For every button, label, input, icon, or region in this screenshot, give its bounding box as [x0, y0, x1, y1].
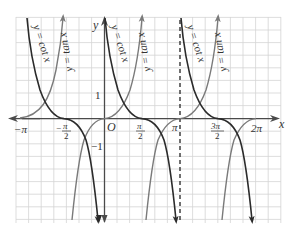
x-tick-neg-pi: −π: [14, 123, 27, 135]
x-tick-pi2-den: 2: [138, 131, 143, 141]
x-tick-2pi: 2π: [251, 122, 263, 134]
y-tick-1: 1: [95, 89, 101, 101]
x-tick-3pi2-num: 3π: [210, 121, 221, 131]
x-tick-3pi2-den: 2: [215, 131, 220, 141]
tan-label-3: y = tan x: [210, 32, 229, 74]
y-tick-neg1: −1: [91, 140, 103, 152]
y-axis-label: y: [92, 18, 99, 32]
x-axis-label: x: [278, 117, 285, 131]
x-tick-pi2-num: π: [137, 121, 142, 131]
origin-label: O: [107, 120, 116, 134]
axis-labels: y x O 1 −1 −π − π 2 π 2 π 3π 2 2π: [14, 18, 285, 152]
tan-label-1: y = tan x: [56, 32, 75, 74]
x-tick-neg-pi2-num: π: [63, 121, 68, 131]
tan-cot-graph: y = cot x y = tan x y = cot x y = tan x …: [0, 0, 293, 230]
x-tick-pi: π: [172, 121, 178, 133]
tan-label-2: y = tan x: [134, 32, 153, 74]
x-tick-neg-pi2-sign: −: [56, 123, 61, 133]
x-tick-neg-pi2-den: 2: [64, 131, 69, 141]
